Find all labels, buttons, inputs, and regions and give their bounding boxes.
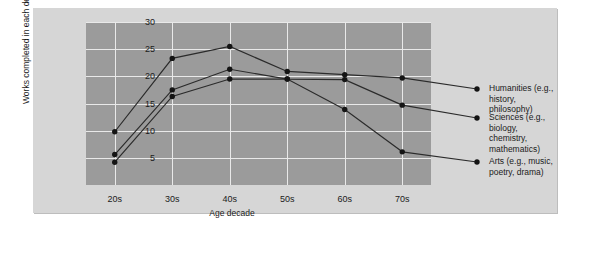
data-point-marker bbox=[170, 94, 175, 99]
y-axis-tick-label: 5 bbox=[115, 153, 155, 163]
y-axis-tick-label: 30 bbox=[115, 17, 155, 27]
legend-marker bbox=[474, 115, 479, 120]
y-axis-tick-label: 20 bbox=[115, 71, 155, 81]
legend-item-label: Arts (e.g., music, poetry, drama) bbox=[489, 156, 553, 177]
legend-item-label: Humanities (e.g., history, philosophy) bbox=[489, 83, 557, 115]
data-point-marker bbox=[342, 77, 347, 82]
x-axis-tick-label: 50s bbox=[280, 194, 295, 204]
y-axis-tick-label: 25 bbox=[115, 44, 155, 54]
legend-leader-line bbox=[402, 78, 477, 89]
series-layer bbox=[33, 8, 557, 213]
data-point-marker bbox=[400, 149, 405, 154]
x-axis-tick-label: 60s bbox=[337, 194, 352, 204]
x-axis-tick-label: 40s bbox=[222, 194, 237, 204]
data-point-marker bbox=[342, 72, 347, 77]
series-line bbox=[115, 69, 403, 154]
legend-leader-line bbox=[402, 105, 477, 118]
legend-marker bbox=[474, 86, 479, 91]
x-axis-tick-label: 70s bbox=[395, 194, 410, 204]
data-point-marker bbox=[400, 102, 405, 107]
data-point-marker bbox=[170, 56, 175, 61]
y-axis-title: Works completed in each decade (%) bbox=[21, 0, 31, 104]
series-line bbox=[115, 46, 403, 131]
data-point-marker bbox=[400, 75, 405, 80]
legend-leader-line bbox=[402, 152, 477, 162]
data-point-marker bbox=[342, 107, 347, 112]
chart-figure: Works completed in each decade (%) Age d… bbox=[33, 8, 557, 213]
data-point-marker bbox=[227, 44, 232, 49]
x-axis-tick-label: 20s bbox=[107, 194, 122, 204]
legend-marker bbox=[474, 159, 479, 164]
series-line bbox=[115, 79, 403, 162]
x-axis-tick-label: 30s bbox=[165, 194, 180, 204]
y-axis-tick-label: 15 bbox=[115, 99, 155, 109]
y-axis-tick-label: 10 bbox=[115, 126, 155, 136]
data-point-marker bbox=[285, 76, 290, 81]
data-point-marker bbox=[170, 87, 175, 92]
data-point-marker bbox=[227, 76, 232, 81]
data-point-marker bbox=[285, 69, 290, 74]
legend-item-label: Sciences (e.g., biology, chemistry, math… bbox=[489, 112, 557, 154]
data-point-marker bbox=[227, 67, 232, 72]
